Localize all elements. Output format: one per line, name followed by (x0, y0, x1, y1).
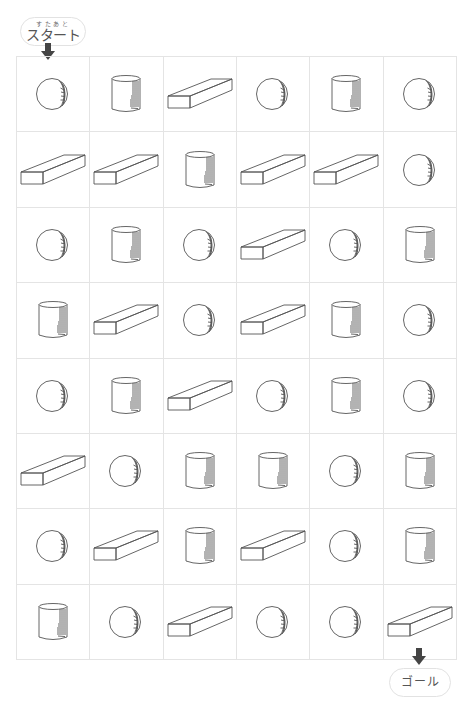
maze-cell-r7-c5[interactable] (310, 509, 383, 584)
box-icon (240, 154, 306, 186)
sphere-icon (108, 453, 144, 489)
sphere-icon (328, 528, 364, 564)
maze-cell-r2-c4[interactable] (237, 132, 310, 207)
maze-grid (16, 56, 457, 660)
maze-cell-r1-c5[interactable] (310, 57, 383, 132)
cylinder-icon (184, 451, 216, 491)
maze-cell-r3-c6[interactable] (384, 208, 457, 283)
box-icon (20, 455, 86, 487)
maze-cell-r6-c6[interactable] (384, 434, 457, 509)
sphere-icon (402, 152, 438, 188)
maze-cell-r2-c3[interactable] (164, 132, 237, 207)
maze-cell-r4-c2[interactable] (90, 283, 163, 358)
box-icon (167, 606, 233, 638)
box-icon (93, 530, 159, 562)
cylinder-icon (330, 74, 362, 114)
maze-cell-r7-c4[interactable] (237, 509, 310, 584)
box-icon (240, 229, 306, 261)
box-icon (167, 380, 233, 412)
sphere-icon (402, 378, 438, 414)
cylinder-icon (404, 526, 436, 566)
maze-cell-r2-c5[interactable] (310, 132, 383, 207)
maze-cell-r2-c1[interactable] (17, 132, 90, 207)
goal-text: ゴール (390, 674, 450, 690)
maze-cell-r1-c6[interactable] (384, 57, 457, 132)
maze-cell-r3-c3[interactable] (164, 208, 237, 283)
sphere-icon (328, 453, 364, 489)
sphere-icon (255, 604, 291, 640)
sphere-icon (255, 76, 291, 112)
maze-cell-r3-c5[interactable] (310, 208, 383, 283)
maze-cell-r5-c3[interactable] (164, 359, 237, 434)
cylinder-icon (110, 225, 142, 265)
maze-cell-r6-c3[interactable] (164, 434, 237, 509)
maze-cell-r5-c6[interactable] (384, 359, 457, 434)
cylinder-icon (37, 602, 69, 642)
maze-cell-r1-c4[interactable] (237, 57, 310, 132)
maze-cell-r3-c1[interactable] (17, 208, 90, 283)
box-icon (93, 154, 159, 186)
maze-cell-r6-c2[interactable] (90, 434, 163, 509)
maze-cell-r1-c1[interactable] (17, 57, 90, 132)
maze-cell-r5-c2[interactable] (90, 359, 163, 434)
sphere-icon (35, 378, 71, 414)
maze-cell-r5-c1[interactable] (17, 359, 90, 434)
box-icon (20, 154, 86, 186)
box-icon (313, 154, 379, 186)
sphere-icon (182, 227, 218, 263)
maze-cell-r2-c6[interactable] (384, 132, 457, 207)
sphere-icon (402, 76, 438, 112)
maze-cell-r1-c2[interactable] (90, 57, 163, 132)
maze-cell-r8-c1[interactable] (17, 585, 90, 660)
maze-cell-r8-c2[interactable] (90, 585, 163, 660)
cylinder-icon (110, 74, 142, 114)
box-icon (240, 304, 306, 336)
cylinder-icon (330, 300, 362, 340)
sphere-icon (35, 76, 71, 112)
cylinder-icon (110, 376, 142, 416)
cylinder-icon (404, 451, 436, 491)
maze-cell-r6-c1[interactable] (17, 434, 90, 509)
maze-cell-r3-c2[interactable] (90, 208, 163, 283)
cylinder-icon (404, 225, 436, 265)
start-text: スタート (21, 26, 85, 44)
sphere-icon (35, 227, 71, 263)
maze-cell-r4-c4[interactable] (237, 283, 310, 358)
maze-cell-r7-c3[interactable] (164, 509, 237, 584)
maze-cell-r7-c6[interactable] (384, 509, 457, 584)
box-icon (93, 304, 159, 336)
cylinder-icon (330, 376, 362, 416)
maze-cell-r4-c3[interactable] (164, 283, 237, 358)
goal-arrow-down-icon (412, 648, 426, 666)
cylinder-icon (257, 451, 289, 491)
maze-cell-r6-c4[interactable] (237, 434, 310, 509)
sphere-icon (108, 604, 144, 640)
cylinder-icon (37, 300, 69, 340)
maze-cell-r2-c2[interactable] (90, 132, 163, 207)
box-icon (240, 530, 306, 562)
maze-cell-r5-c5[interactable] (310, 359, 383, 434)
maze-cell-r8-c5[interactable] (310, 585, 383, 660)
goal-label: ゴール (389, 668, 451, 697)
maze-cell-r1-c3[interactable] (164, 57, 237, 132)
maze-cell-r3-c4[interactable] (237, 208, 310, 283)
maze-cell-r4-c6[interactable] (384, 283, 457, 358)
box-icon (387, 606, 453, 638)
sphere-icon (182, 302, 218, 338)
sphere-icon (402, 302, 438, 338)
cylinder-icon (184, 150, 216, 190)
cylinder-icon (184, 526, 216, 566)
maze-cell-r5-c4[interactable] (237, 359, 310, 434)
maze-cell-r4-c5[interactable] (310, 283, 383, 358)
maze-cell-r4-c1[interactable] (17, 283, 90, 358)
sphere-icon (35, 528, 71, 564)
sphere-icon (328, 604, 364, 640)
maze-cell-r7-c1[interactable] (17, 509, 90, 584)
sphere-icon (255, 378, 291, 414)
maze-cell-r6-c5[interactable] (310, 434, 383, 509)
sphere-icon (328, 227, 364, 263)
start-label: すたあと スタート (20, 17, 86, 46)
maze-cell-r7-c2[interactable] (90, 509, 163, 584)
maze-cell-r8-c4[interactable] (237, 585, 310, 660)
maze-cell-r8-c3[interactable] (164, 585, 237, 660)
